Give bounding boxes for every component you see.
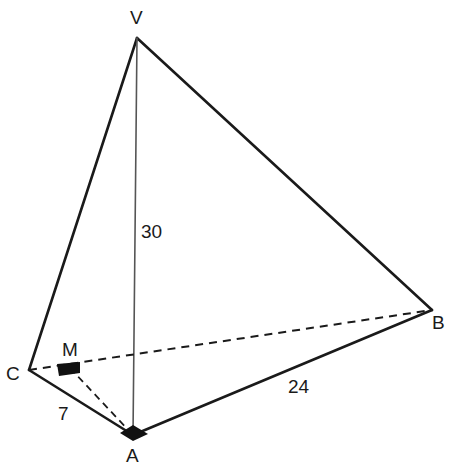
vertex-label-v: V bbox=[130, 8, 143, 27]
right-angle-marker-m-icon bbox=[57, 362, 80, 376]
vertex-label-a: A bbox=[126, 446, 139, 465]
edge-CB-dashed bbox=[29, 310, 432, 370]
measure-label-ca: 7 bbox=[58, 404, 69, 423]
measure-label-altitude: 30 bbox=[141, 222, 162, 241]
right-angle-marker-a-icon bbox=[120, 425, 148, 441]
edge-AB bbox=[133, 310, 432, 435]
edge-VB bbox=[137, 38, 432, 310]
measure-label-ab: 24 bbox=[288, 377, 309, 396]
vertex-label-c: C bbox=[6, 364, 20, 383]
vertex-label-m: M bbox=[62, 340, 78, 359]
vertex-label-b: B bbox=[432, 313, 445, 332]
diagram-svg bbox=[0, 0, 450, 472]
edge-VA-altitude bbox=[133, 38, 137, 435]
geometry-diagram-canvas: V B C A M 30 24 7 bbox=[0, 0, 450, 472]
edge-VC bbox=[29, 38, 137, 370]
